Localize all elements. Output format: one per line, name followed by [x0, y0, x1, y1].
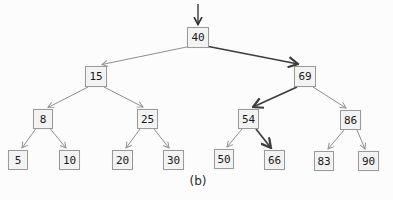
tree-node-90: 90	[358, 151, 379, 171]
edge-8-10	[50, 129, 66, 149]
edge-86-90	[357, 130, 365, 149]
tree-node-25: 25	[137, 109, 158, 129]
edge-69-86	[313, 87, 346, 108]
tree-node-69: 69	[294, 66, 316, 87]
tree-node-15: 15	[85, 66, 107, 87]
tree-node-54: 54	[238, 109, 259, 129]
tree-node-50: 50	[214, 149, 234, 169]
edge-40-69	[206, 46, 298, 64]
edge-15-8	[48, 87, 88, 108]
tree-node-30: 30	[163, 150, 184, 170]
figure-caption: (b)	[183, 174, 213, 188]
edge-8-5	[22, 129, 36, 149]
tree-node-40: 40	[187, 27, 209, 48]
tree-node-83: 83	[314, 151, 334, 171]
edge-69-54	[253, 87, 297, 107]
edge-15-25	[104, 87, 143, 107]
edge-54-66	[256, 129, 271, 148]
edge-54-50	[227, 129, 242, 147]
edge-25-20	[126, 129, 140, 148]
tree-node-5: 5	[8, 150, 28, 170]
tree-node-8: 8	[33, 109, 53, 129]
edge-25-30	[154, 129, 169, 148]
tree-node-66: 66	[264, 150, 285, 170]
edge-40-15	[102, 47, 189, 65]
tree-node-86: 86	[340, 110, 361, 130]
edge-86-83	[328, 130, 344, 149]
binary-tree-figure: 40 15 69 8 25 54 86 5 10 20 30 50 66 83 …	[0, 0, 393, 200]
tree-node-10: 10	[59, 150, 80, 170]
tree-node-20: 20	[112, 150, 133, 170]
